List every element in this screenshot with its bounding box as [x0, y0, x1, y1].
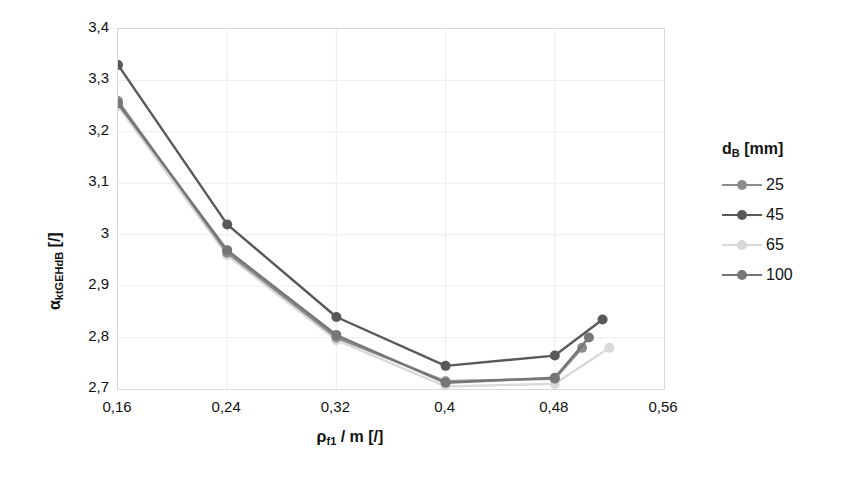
- series-line-25: [118, 101, 582, 381]
- legend-item-label: 65: [766, 236, 784, 254]
- data-point: [604, 343, 614, 353]
- legend-marker-dot: [737, 240, 747, 250]
- y-tick-label: 2,9: [63, 275, 109, 292]
- data-point: [441, 361, 451, 371]
- legend-marker-dot: [737, 180, 747, 190]
- data-point: [441, 378, 451, 388]
- x-tick-label: 0,4: [415, 398, 475, 415]
- x-tick-label: 0,16: [87, 398, 147, 415]
- y-axis-title-unit: [/]: [46, 232, 63, 252]
- legend-title-subscript: B: [732, 147, 740, 159]
- y-axis-title-symbol: α: [46, 300, 63, 310]
- y-tick-label: 2,7: [63, 378, 109, 395]
- x-axis-title-symbol: ρ: [317, 428, 327, 445]
- series-45: [118, 60, 608, 371]
- legend-swatch-icon: [722, 239, 762, 251]
- legend-item-100[interactable]: 100: [722, 260, 837, 290]
- legend-item-25[interactable]: 25: [722, 170, 837, 200]
- legend-swatch-icon: [722, 269, 762, 281]
- legend-item-label: 100: [766, 266, 793, 284]
- legend-item-label: 25: [766, 176, 784, 194]
- plot-svg: [118, 29, 664, 389]
- series-65: [118, 101, 614, 389]
- x-axis-title-subscript: f1: [327, 435, 337, 447]
- series-line-65: [118, 106, 609, 386]
- legend-item-65[interactable]: 65: [722, 230, 837, 260]
- chart-figure: αktGEHdB [/] ρf1 / m [/] 3,43,33,23,132,…: [0, 0, 845, 477]
- data-point: [222, 245, 232, 255]
- legend-swatch-icon: [722, 209, 762, 221]
- x-axis-title-unit: / m [/]: [336, 428, 383, 445]
- data-point: [584, 333, 594, 343]
- legend-item-label: 45: [766, 206, 784, 224]
- y-tick-label: 3: [63, 224, 109, 241]
- series-line-100: [118, 104, 589, 383]
- x-tick-label: 0,32: [305, 398, 365, 415]
- legend-marker-dot: [737, 270, 747, 280]
- y-tick-label: 3,4: [63, 18, 109, 35]
- y-tick-label: 3,3: [63, 69, 109, 86]
- data-point: [222, 219, 232, 229]
- legend-marker-dot: [737, 210, 747, 220]
- legend-title-symbol: d: [722, 140, 732, 157]
- data-point: [331, 312, 341, 322]
- series-line-45: [118, 65, 603, 366]
- x-tick-label: 0,48: [524, 398, 584, 415]
- data-point: [331, 330, 341, 340]
- data-point: [118, 60, 123, 70]
- legend-title: dB [mm]: [722, 140, 837, 158]
- y-tick-label: 2,8: [63, 327, 109, 344]
- legend-items: 254565100: [722, 170, 837, 290]
- y-tick-label: 3,1: [63, 172, 109, 189]
- legend-item-45[interactable]: 45: [722, 200, 837, 230]
- data-point: [550, 351, 560, 361]
- legend: dB [mm] 254565100: [722, 140, 837, 290]
- data-point: [550, 373, 560, 383]
- x-axis-title: ρf1 / m [/]: [0, 428, 700, 446]
- y-axis-title: αktGEHdB [/]: [46, 232, 64, 310]
- series-100: [118, 99, 594, 388]
- data-point: [598, 315, 608, 325]
- y-tick-label: 3,2: [63, 121, 109, 138]
- legend-title-unit: [mm]: [740, 140, 784, 157]
- x-tick-label: 0,56: [633, 398, 693, 415]
- x-tick-label: 0,24: [196, 398, 256, 415]
- y-axis-title-wrap: αktGEHdB [/]: [26, 142, 50, 312]
- plot-area: [117, 28, 665, 390]
- legend-swatch-icon: [722, 179, 762, 191]
